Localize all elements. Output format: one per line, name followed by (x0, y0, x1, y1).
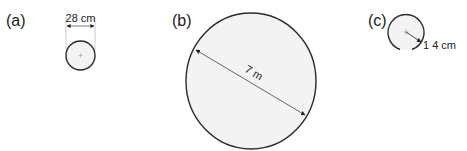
figure-c: (c) 1 4 cm (368, 12, 456, 51)
figure-a: (a) 28 cm (6, 12, 95, 70)
figure-c-label: (c) (368, 12, 387, 29)
circle-b (186, 13, 316, 149)
figure-b: (b) 7 m (172, 12, 316, 149)
figure-a-label: (a) (6, 12, 26, 29)
circle-figures-diagram: (a) 28 cm (b) 7 m (c) 1 4 cm (0, 0, 467, 151)
figure-c-radius-text: 1 4 cm (423, 39, 456, 51)
figure-b-label: (b) (172, 12, 192, 29)
figure-a-diameter-text: 28 cm (66, 12, 96, 24)
